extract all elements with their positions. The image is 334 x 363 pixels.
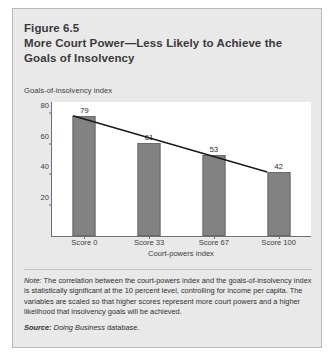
note-text: The correlation between the court-powers…: [24, 276, 311, 316]
source-label: Source:: [24, 323, 52, 332]
x-axis-tick-label: Score 100: [261, 238, 296, 247]
x-axis-tick-label: Score 0: [71, 238, 97, 247]
chart-plot: 20406080 79Score 061Score 3353Score 6742…: [19, 97, 315, 249]
trendline: [52, 102, 311, 236]
y-axis-tick-label: 60: [41, 131, 49, 140]
note-divider: [24, 269, 312, 270]
figure-header: Figure 6.5 More Court Power—Less Likely …: [24, 21, 312, 66]
x-axis-tick-label: Score 33: [134, 238, 164, 247]
x-axis-tick-label: Score 67: [199, 238, 229, 247]
figure-source: Source: Doing Business database.: [24, 323, 314, 333]
y-axis-tick-label: 80: [41, 101, 49, 110]
figure-title-line-2: Goals of Insolvency: [24, 51, 312, 66]
note-label: Note:: [24, 276, 42, 285]
source-suffix: database.: [105, 323, 140, 332]
plot-frame: 20406080 79Score 061Score 3353Score 6742…: [51, 102, 311, 237]
y-axis-tick-label: 40: [41, 162, 49, 171]
source-publication: Doing Business: [52, 323, 105, 332]
figure-panel: Figure 6.5 More Court Power—Less Likely …: [12, 8, 322, 348]
trend-line-segment: [73, 116, 267, 172]
y-axis-title: Goals-of-insolvency index: [24, 86, 112, 95]
figure-title-line-1: More Court Power—Less Likely to Achieve …: [24, 36, 312, 51]
y-axis-tick-label: 20: [41, 192, 49, 201]
x-axis-title: Court-powers index: [51, 249, 311, 258]
figure-number: Figure 6.5: [24, 21, 312, 36]
figure-note: Note: The correlation between the court-…: [24, 276, 314, 317]
